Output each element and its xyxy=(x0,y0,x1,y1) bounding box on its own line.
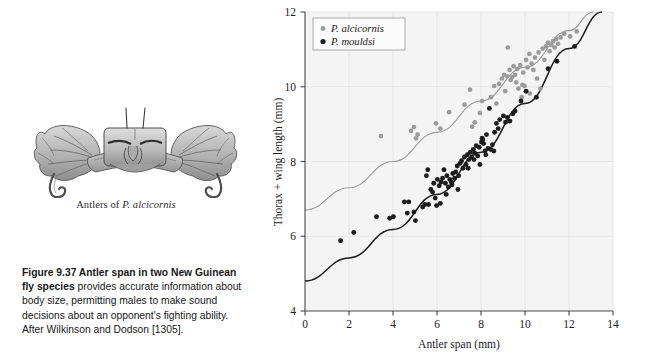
data-point-mouldsi xyxy=(455,187,460,192)
data-point-alcicornis xyxy=(497,81,502,86)
data-point-mouldsi xyxy=(442,167,447,172)
data-point-alcicornis xyxy=(529,61,534,66)
data-point-alcicornis xyxy=(492,84,497,89)
x-axis-title: Antler span (mm) xyxy=(418,338,500,351)
data-point-mouldsi xyxy=(402,199,407,204)
data-point-mouldsi xyxy=(484,132,489,137)
data-point-alcicornis xyxy=(514,80,519,85)
data-point-alcicornis xyxy=(556,41,561,46)
data-point-alcicornis xyxy=(409,129,414,134)
data-point-mouldsi xyxy=(450,182,455,187)
data-point-alcicornis xyxy=(518,63,523,68)
data-point-alcicornis xyxy=(521,70,526,75)
y-tick-label: 6 xyxy=(290,230,296,242)
data-point-alcicornis xyxy=(438,126,443,131)
y-tick-label: 10 xyxy=(285,81,297,93)
data-point-alcicornis xyxy=(503,89,508,94)
data-point-alcicornis xyxy=(494,101,499,106)
x-tick-label: 6 xyxy=(434,318,440,330)
data-point-alcicornis xyxy=(524,57,529,62)
data-point-mouldsi xyxy=(430,190,435,195)
illustration-caption-species: P. alcicornis xyxy=(122,199,176,210)
data-point-alcicornis xyxy=(574,29,579,34)
data-point-alcicornis xyxy=(507,68,512,73)
data-point-alcicornis xyxy=(520,83,525,88)
antennae-bristles xyxy=(126,108,145,128)
data-point-alcicornis xyxy=(547,49,552,54)
data-point-mouldsi xyxy=(513,109,518,114)
data-point-mouldsi xyxy=(456,173,461,178)
data-point-mouldsi xyxy=(508,119,513,124)
antler-head-illustration xyxy=(28,98,243,198)
data-point-mouldsi xyxy=(338,238,343,243)
y-tick-label: 12 xyxy=(285,6,297,18)
figure-left-column: Antlers of P. alcicornis Figure 9.37 Ant… xyxy=(0,0,268,359)
data-point-alcicornis xyxy=(552,45,557,50)
data-point-alcicornis xyxy=(525,65,530,70)
data-point-mouldsi xyxy=(433,196,438,201)
x-tick-label: 2 xyxy=(346,318,352,330)
data-point-alcicornis xyxy=(568,34,573,39)
data-point-alcicornis xyxy=(415,132,420,137)
x-tick-label: 8 xyxy=(478,318,484,330)
data-point-mouldsi xyxy=(426,202,431,207)
y-tick-label: 4 xyxy=(290,305,296,317)
data-point-mouldsi xyxy=(413,218,418,223)
data-point-alcicornis xyxy=(516,86,521,91)
data-point-alcicornis xyxy=(531,68,536,73)
data-point-mouldsi xyxy=(438,201,443,206)
x-tick-label: 4 xyxy=(390,318,396,330)
figure-caption: Figure 9.37 Antler span in two New Guine… xyxy=(22,266,250,337)
data-point-mouldsi xyxy=(503,120,508,125)
data-point-alcicornis xyxy=(554,37,559,42)
data-point-mouldsi xyxy=(492,130,497,135)
data-point-mouldsi xyxy=(420,205,425,210)
data-point-alcicornis xyxy=(447,110,452,115)
data-point-mouldsi xyxy=(440,176,445,181)
data-point-alcicornis xyxy=(542,57,547,62)
data-point-alcicornis xyxy=(478,111,483,116)
data-point-mouldsi xyxy=(494,121,499,126)
data-point-mouldsi xyxy=(431,181,436,186)
data-point-alcicornis xyxy=(513,72,518,77)
data-point-mouldsi xyxy=(554,59,559,64)
data-point-mouldsi xyxy=(452,176,457,181)
data-point-alcicornis xyxy=(468,87,473,92)
data-point-mouldsi xyxy=(406,199,411,204)
right-antler-lobe xyxy=(171,125,237,180)
left-antler-lobe xyxy=(34,125,100,180)
x-tick-label: 10 xyxy=(519,318,531,330)
x-tick-label: 12 xyxy=(563,318,575,330)
data-point-alcicornis xyxy=(535,76,540,81)
data-point-mouldsi xyxy=(477,162,482,167)
data-point-mouldsi xyxy=(487,106,492,111)
data-point-alcicornis xyxy=(412,125,417,130)
data-point-mouldsi xyxy=(425,167,430,172)
data-point-mouldsi xyxy=(572,44,577,49)
data-point-mouldsi xyxy=(475,153,480,158)
x-tick-label: 0 xyxy=(302,318,308,330)
fly-head-capsule xyxy=(104,128,166,172)
data-point-mouldsi xyxy=(351,230,356,235)
data-point-mouldsi xyxy=(519,99,524,104)
data-point-mouldsi xyxy=(405,211,410,216)
data-point-alcicornis xyxy=(470,124,475,129)
legend-label-mouldsi: P. mouldsi xyxy=(330,36,375,47)
data-point-alcicornis xyxy=(505,74,510,79)
data-point-alcicornis xyxy=(379,134,384,139)
illustration-caption: Antlers of P. alcicornis xyxy=(0,199,252,210)
data-point-mouldsi xyxy=(391,214,396,219)
data-point-mouldsi xyxy=(490,142,495,147)
chart-legend: P. alcicornis P. mouldsi xyxy=(313,18,405,50)
data-point-alcicornis xyxy=(533,55,538,60)
data-point-mouldsi xyxy=(534,95,539,100)
data-point-mouldsi xyxy=(481,141,486,146)
data-point-alcicornis xyxy=(472,120,477,125)
y-tick-label: 8 xyxy=(290,156,296,168)
data-point-mouldsi xyxy=(472,157,477,162)
data-point-mouldsi xyxy=(491,149,496,154)
data-point-mouldsi xyxy=(496,126,501,131)
data-point-alcicornis xyxy=(515,66,520,71)
y-axis-title: Thorax + wing length (mm) xyxy=(272,98,285,227)
data-point-mouldsi xyxy=(424,173,429,178)
